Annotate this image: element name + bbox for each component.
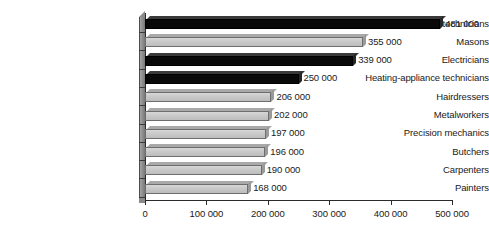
y-axis-tick [139, 50, 145, 51]
bar-value-label: 190 000 [267, 164, 301, 176]
x-axis-tick [268, 200, 269, 205]
bar-value-label: 197 000 [271, 127, 305, 139]
bar-value-label: 196 000 [270, 146, 304, 158]
x-axis-tick [206, 200, 207, 205]
x-axis-tick-label: 300 000 [312, 208, 346, 219]
bar-front-face [145, 184, 248, 194]
category-label: Painters [355, 182, 489, 193]
bar-end-face [269, 108, 272, 121]
bar-front-face [145, 56, 353, 66]
x-axis-tick [452, 200, 453, 205]
bar-front-face [145, 129, 266, 139]
bar [145, 74, 299, 84]
x-axis-tick [145, 200, 146, 205]
bar [145, 147, 265, 157]
category-label: Heating-appliance technicians [355, 72, 489, 83]
x-axis-tick-label: 400 000 [374, 208, 408, 219]
y-axis-tick [139, 105, 145, 106]
category-label: Metalworkers [355, 109, 489, 120]
x-axis-tick-label: 200 000 [251, 208, 285, 219]
bar-value-label: 355 000 [368, 36, 402, 48]
x-axis-tick-label: 0 [142, 208, 147, 219]
y-axis-tick [139, 69, 145, 70]
x-axis-line [145, 200, 453, 201]
x-axis-tick-label: 500 000 [435, 208, 469, 219]
y-axis-tick [139, 32, 145, 33]
bar-front-face [145, 111, 269, 121]
bar [145, 92, 271, 102]
bar-value-label: 481 000 [445, 18, 479, 30]
y-axis-tick [139, 178, 145, 179]
category-label: Butchers [355, 146, 489, 157]
bar-end-face [299, 71, 302, 84]
bar-value-label: 206 000 [276, 91, 310, 103]
bar-end-face [262, 162, 265, 175]
y-axis-tick [139, 87, 145, 88]
category-label: Carpenters [355, 164, 489, 175]
bar-value-label: 339 000 [358, 54, 392, 66]
y-axis-tick [139, 197, 145, 198]
bar [145, 56, 353, 66]
y-axis-tick [139, 124, 145, 125]
x-axis-tick [391, 200, 392, 205]
bar [145, 37, 363, 47]
bar-front-face [145, 92, 271, 102]
x-axis-tick [329, 200, 330, 205]
bar-front-face [145, 19, 440, 29]
category-label: Hairdressers [355, 91, 489, 102]
bar-value-label: 202 000 [274, 109, 308, 121]
y-axis-tick [139, 160, 145, 161]
bar [145, 19, 440, 29]
bar-end-face [248, 181, 251, 194]
bar [145, 184, 248, 194]
bar-value-label: 168 000 [253, 182, 287, 194]
bar-end-face [265, 144, 268, 157]
bar-value-label: 250 000 [304, 72, 338, 84]
bar-front-face [145, 147, 265, 157]
bar [145, 129, 266, 139]
y-axis-tick [139, 142, 145, 143]
bar-front-face [145, 74, 299, 84]
bar [145, 111, 269, 121]
bar-front-face [145, 165, 262, 175]
bar-front-face [145, 37, 363, 47]
bar-end-face [266, 126, 269, 139]
category-label: Precision mechanics [355, 127, 489, 138]
x-axis-tick-label: 100 000 [190, 208, 224, 219]
bar-chart: Automotive techniciansMasonsElectricians… [0, 0, 489, 229]
bar [145, 165, 262, 175]
